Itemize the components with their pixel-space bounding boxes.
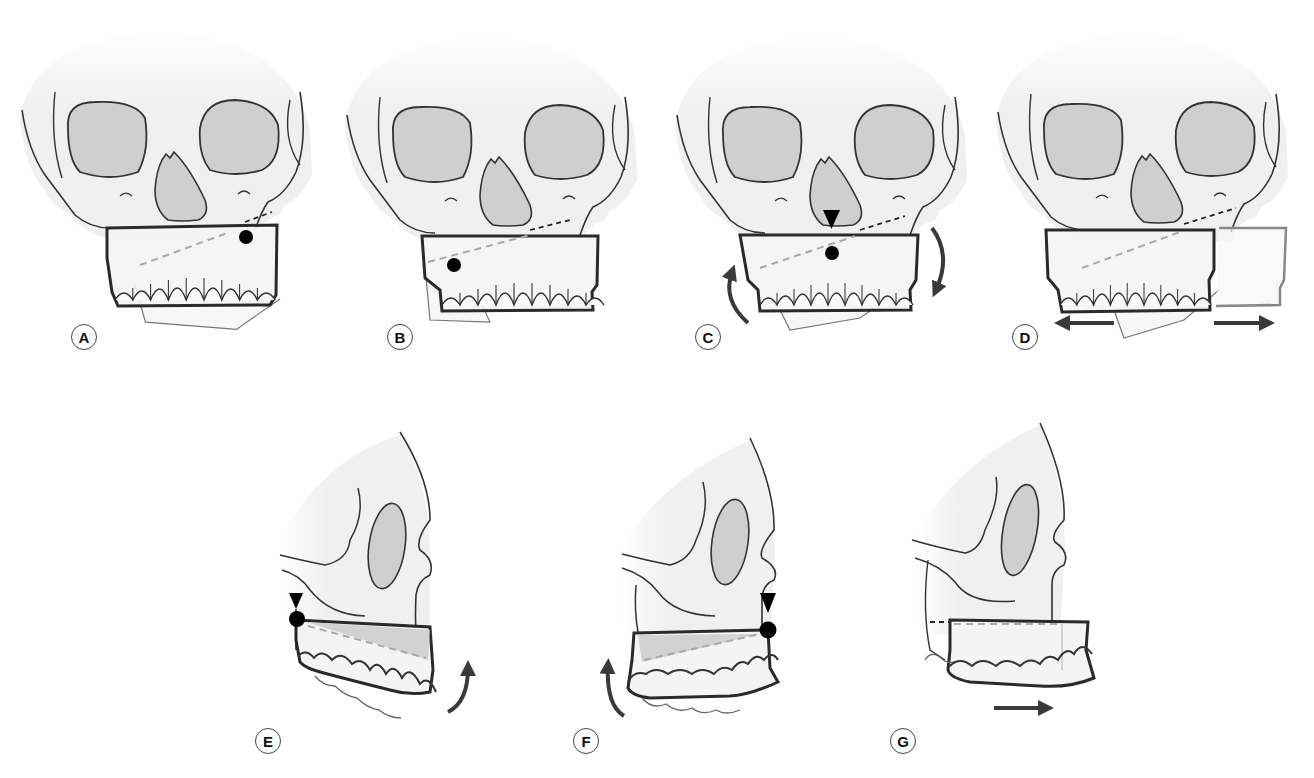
panel-c: C [660,0,990,360]
panel-label-b: B [387,324,413,350]
pivot-dot [239,230,253,244]
panel-d: D [984,0,1314,360]
panel-label-e: E [255,728,281,754]
pivot-dot [825,246,839,260]
panel-b: B [330,0,660,360]
lateral-skull-illustration [550,420,830,778]
lateral-skull-illustration [870,420,1130,778]
panel-a: A [0,0,330,360]
frontal-skull-illustration [0,0,330,360]
panel-label-a: A [71,324,97,350]
pivot-dot [760,622,777,639]
pivot-dot [447,258,461,272]
rotation-arrow-left [729,272,748,323]
rotation-arrow [608,666,624,716]
panel-f: F [550,420,830,778]
pivot-dot [289,611,305,627]
panel-g: G [870,420,1130,778]
panel-label-d: D [1012,324,1038,350]
rotation-arrow-right [932,228,943,290]
rotation-arrow [448,668,468,712]
panel-label-f: F [573,728,599,754]
panel-label-g: G [890,728,916,754]
lateral-skull-illustration [220,420,500,778]
panel-label-c: C [695,324,721,350]
frontal-skull-illustration [984,0,1314,360]
frontal-skull-illustration [660,0,990,360]
panel-e: E [220,420,500,778]
frontal-skull-illustration [330,0,660,360]
